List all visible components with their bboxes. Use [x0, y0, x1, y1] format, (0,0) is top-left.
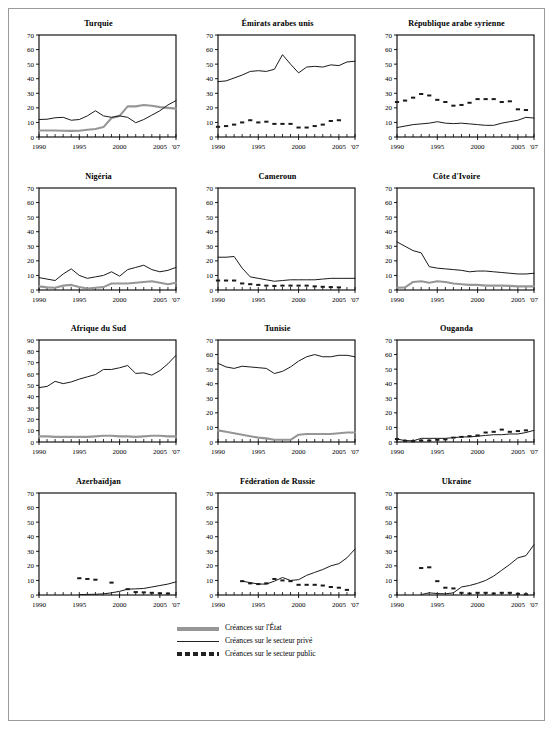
- x-tick-label: 2000: [471, 448, 486, 456]
- y-tick-label: 30: [206, 547, 214, 555]
- panel-title: Émirats arabes unis: [188, 19, 367, 29]
- x-tick-label: 2000: [471, 601, 486, 609]
- y-tick-label: 0: [210, 439, 214, 447]
- chart-panel-nig-ria: Nigéria0102030405060701990199520002005'0…: [9, 168, 188, 321]
- x-tick-label: 2000: [113, 296, 128, 304]
- y-tick-label: 10: [206, 424, 214, 432]
- series-line-prive: [397, 430, 534, 440]
- y-tick-label: 10: [27, 272, 35, 280]
- y-tick-label: 50: [385, 366, 393, 374]
- y-tick-label: 30: [27, 90, 35, 98]
- chart-panel-azerba-djan: Azerbaïdjan01020304050607019901995200020…: [9, 473, 188, 626]
- y-tick-label: 40: [27, 533, 35, 541]
- panel-plot: 0102030405060701990199520002005'07: [367, 487, 546, 621]
- y-tick-label: 50: [385, 213, 393, 221]
- y-tick-label: 20: [385, 257, 393, 265]
- x-tick-label: 1995: [430, 143, 445, 151]
- y-tick-label: 10: [385, 577, 393, 585]
- y-tick-label: 80: [27, 348, 35, 356]
- y-tick-label: 10: [27, 427, 35, 435]
- y-tick-label: 0: [389, 286, 393, 294]
- y-tick-label: 70: [27, 32, 35, 40]
- y-tick-label: 0: [389, 439, 393, 447]
- panel-title: Fédération de Russie: [188, 477, 367, 487]
- x-tick-label: '07: [530, 143, 539, 151]
- x-tick-label: 1990: [390, 296, 405, 304]
- y-tick-label: 70: [206, 184, 214, 192]
- panel-title: Turquie: [9, 19, 188, 29]
- plot-border: [39, 188, 176, 290]
- chart-panel-r-publique-arabe-syrienne: République arabe syrienne010203040506070…: [367, 15, 546, 168]
- x-tick-label: 2000: [113, 143, 128, 151]
- panel-plot: 0102030405060701990199520002005'07: [9, 487, 188, 621]
- y-tick-label: 40: [27, 228, 35, 236]
- x-tick-label: 1995: [251, 601, 266, 609]
- x-tick-label: '07: [351, 601, 360, 609]
- plot-border: [397, 493, 534, 595]
- panel-title: Côte d'Ivoire: [367, 172, 546, 182]
- series-line-prive: [218, 256, 355, 281]
- x-tick-label: 2000: [471, 296, 486, 304]
- legend-label: Créances sur le secteur privé: [225, 636, 312, 645]
- y-tick-label: 10: [385, 119, 393, 127]
- y-tick-label: 50: [27, 518, 35, 526]
- y-tick-label: 10: [385, 272, 393, 280]
- y-tick-label: 50: [27, 61, 35, 69]
- x-tick-label: '07: [172, 143, 181, 151]
- y-tick-label: 20: [206, 562, 214, 570]
- panel-plot: 0102030405060701990199520002005'07: [188, 29, 367, 163]
- y-tick-label: 20: [385, 104, 393, 112]
- y-tick-label: 60: [385, 46, 393, 54]
- x-tick-label: 1995: [251, 296, 266, 304]
- y-tick-label: 60: [206, 199, 214, 207]
- legend-swatch-public-icon: [177, 648, 219, 660]
- y-tick-label: 60: [27, 504, 35, 512]
- chart-panel-afrique-du-sud: Afrique du Sud01020304050607080901990199…: [9, 320, 188, 473]
- y-tick-label: 0: [389, 591, 393, 599]
- x-tick-label: 1995: [72, 448, 87, 456]
- series-line-prive: [218, 355, 355, 374]
- y-tick-label: 30: [206, 395, 214, 403]
- y-tick-label: 40: [27, 75, 35, 83]
- y-tick-label: 20: [385, 409, 393, 417]
- x-tick-label: 2000: [471, 143, 486, 151]
- y-tick-label: 70: [206, 32, 214, 40]
- panel-plot: 0102030405060701990199520002005'07: [188, 334, 367, 468]
- x-tick-label: 2005: [332, 143, 347, 151]
- panel-plot: 0102030405060701990199520002005'07: [188, 182, 367, 316]
- panel-plot: 0102030405060701990199520002005'07: [9, 182, 188, 316]
- x-tick-label: '07: [351, 143, 360, 151]
- x-tick-label: 1995: [430, 296, 445, 304]
- plot-border: [397, 35, 534, 137]
- x-tick-label: 1990: [32, 448, 47, 456]
- figure-page: Turquie0102030405060701990199520002005'0…: [0, 0, 553, 732]
- x-tick-label: 2005: [332, 296, 347, 304]
- x-tick-label: 1990: [211, 448, 226, 456]
- y-tick-label: 0: [31, 591, 35, 599]
- y-tick-label: 20: [27, 104, 35, 112]
- y-tick-label: 40: [385, 228, 393, 236]
- series-line-etat: [218, 430, 355, 439]
- y-tick-label: 40: [206, 75, 214, 83]
- y-tick-label: 50: [385, 61, 393, 69]
- x-tick-label: '07: [530, 448, 539, 456]
- y-tick-label: 50: [206, 61, 214, 69]
- y-tick-label: 10: [385, 424, 393, 432]
- series-line-etat: [39, 281, 176, 288]
- y-tick-label: 10: [206, 272, 214, 280]
- y-tick-label: 70: [27, 359, 35, 367]
- series-line-prive: [421, 544, 534, 594]
- series-line-prive: [39, 265, 176, 280]
- panel-plot: 0102030405060701990199520002005'07: [9, 29, 188, 163]
- y-tick-label: 20: [27, 257, 35, 265]
- y-tick-label: 50: [27, 213, 35, 221]
- y-tick-label: 30: [385, 242, 393, 250]
- y-tick-label: 50: [206, 213, 214, 221]
- panel-plot: 0102030405060701990199520002005'07: [188, 487, 367, 621]
- x-tick-label: 2005: [153, 143, 168, 151]
- y-tick-label: 30: [27, 547, 35, 555]
- x-tick-label: 1990: [32, 296, 47, 304]
- y-tick-label: 60: [206, 46, 214, 54]
- x-tick-label: 2005: [332, 601, 347, 609]
- x-tick-label: 2000: [292, 601, 307, 609]
